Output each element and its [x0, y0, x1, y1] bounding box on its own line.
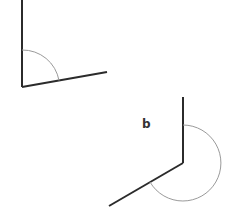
angle-a-arc — [22, 50, 59, 81]
angle-b: b — [109, 97, 221, 206]
angle-a-ray-lower — [22, 72, 107, 87]
angle-b-label: b — [142, 117, 151, 131]
angle-a — [22, 0, 107, 87]
angle-diagram: b — [0, 0, 227, 221]
angle-b-arc — [150, 125, 221, 201]
